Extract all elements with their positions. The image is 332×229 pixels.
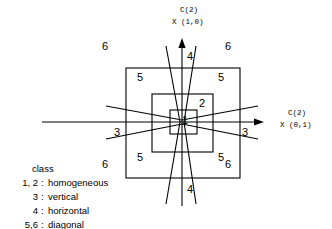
figure-page: C(2) X (1,0) C(2) X (0,1) 6 6 5 5 4 2 1 … xyxy=(0,0,332,229)
horizontal-axis-label-line1: C(2) xyxy=(288,109,306,117)
region-label-3-right: 3 xyxy=(242,126,248,138)
class3-ray-right-upper xyxy=(182,106,258,120)
legend-row-sep-3: : xyxy=(41,205,44,216)
legend-row-key-2: 3 xyxy=(33,191,38,202)
region-label-5-bottom-right: 5 xyxy=(218,151,224,163)
region-label-4-bottom: 4 xyxy=(187,183,193,195)
class4-ray-top-left xyxy=(166,46,180,122)
region-label-1: 1 xyxy=(182,114,188,126)
region-label-6-bottom-right: 6 xyxy=(225,158,231,170)
region-label-3-left: 3 xyxy=(114,126,120,138)
legend: class 1, 2 : homogeneous 3 : vertical 4 … xyxy=(22,163,108,229)
legend-row-key-1: 1, 2 xyxy=(22,177,38,188)
region-label-6-top-right: 6 xyxy=(225,40,231,52)
vertical-axis-arrowhead xyxy=(178,38,185,48)
horizontal-axis-arrowhead xyxy=(254,118,264,125)
horizontal-axis-label: C(2) X (0,1) xyxy=(280,109,312,129)
legend-row-sep-4: : xyxy=(41,219,44,229)
region-label-4-top: 4 xyxy=(187,50,193,62)
legend-row-value-4: diagonal xyxy=(48,219,84,229)
region-label-5-bottom-left: 5 xyxy=(137,151,143,163)
legend-row-value-3: horizontal xyxy=(48,205,89,216)
horizontal-axis-label-line2: X (0,1) xyxy=(280,121,312,129)
texture-class-diagram: C(2) X (1,0) C(2) X (0,1) 6 6 5 5 4 2 1 … xyxy=(0,0,332,229)
region-labels-group: 6 6 5 5 4 2 1 3 3 5 5 6 6 4 xyxy=(102,40,248,195)
vertical-axis-label-line1: C(2) xyxy=(180,6,198,14)
legend-row-value-1: homogeneous xyxy=(48,177,108,188)
legend-heading: class xyxy=(32,163,54,174)
legend-row-key-4: 5,6 xyxy=(25,219,38,229)
vertical-axis-label-line2: X (1,0) xyxy=(172,18,204,26)
vertical-axis-label: C(2) X (1,0) xyxy=(172,6,204,26)
legend-row-sep-2: : xyxy=(41,191,44,202)
class3-ray-left-upper xyxy=(106,106,182,120)
legend-row-key-3: 4 xyxy=(33,205,38,216)
region-label-2: 2 xyxy=(199,97,205,109)
region-label-6-top-left: 6 xyxy=(102,40,108,52)
legend-row-value-2: vertical xyxy=(48,191,78,202)
legend-row-sep-1: : xyxy=(41,177,44,188)
region-label-5-top-left: 5 xyxy=(137,71,143,83)
region-label-6-bottom-left: 6 xyxy=(102,158,108,170)
region-label-5-top-right: 5 xyxy=(218,71,224,83)
